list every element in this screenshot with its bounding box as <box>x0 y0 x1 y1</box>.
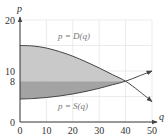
y-tick-label: 10 <box>5 66 15 77</box>
y-tick-label: 8 <box>10 76 15 87</box>
x-tick-labels: 01020304050 <box>18 125 158 136</box>
x-tick-label: 10 <box>41 125 51 136</box>
y-axis-label: p <box>16 3 22 14</box>
supply-curve-label: p = S(q) <box>57 101 88 111</box>
y-tick-labels: 081020 <box>5 15 15 128</box>
x-tick-label: 30 <box>94 125 104 136</box>
x-tick-label: 20 <box>68 125 78 136</box>
x-tick-label: 40 <box>121 125 131 136</box>
y-tick-label: 20 <box>5 15 15 26</box>
demand-curve-label: p = D(q) <box>57 31 90 41</box>
y-tick-label: 0 <box>10 117 15 128</box>
x-axis-label: q <box>159 111 164 122</box>
surplus-chart: q p 01020304050 081020 p = D(q) p = S(q) <box>0 0 165 139</box>
x-tick-label: 0 <box>18 125 23 136</box>
x-tick-label: 50 <box>147 125 157 136</box>
